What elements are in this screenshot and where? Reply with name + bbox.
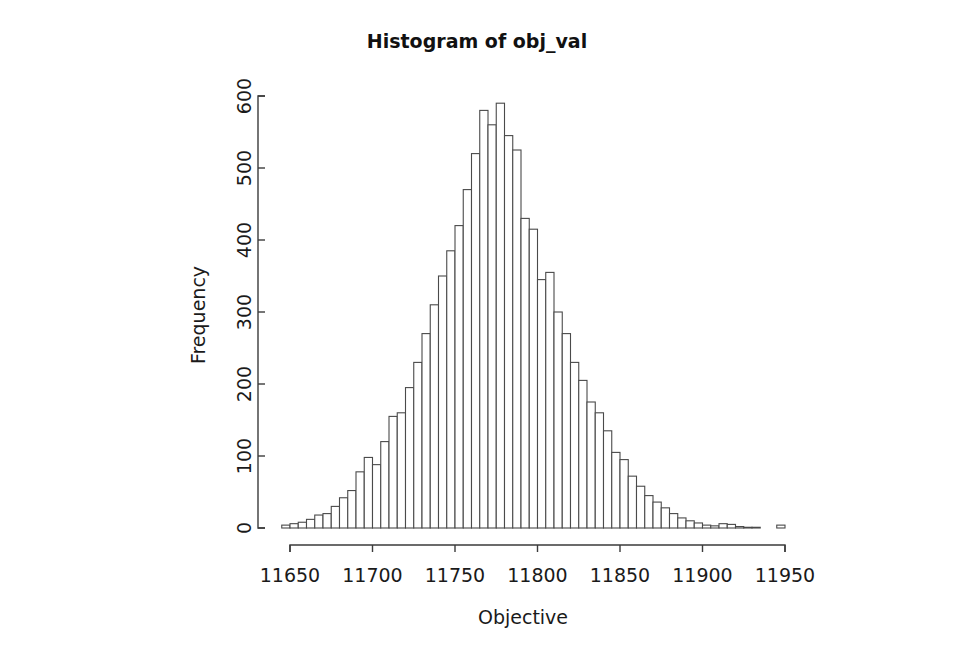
- histogram-bar: [752, 527, 760, 528]
- histogram-bar: [282, 525, 290, 528]
- histogram-bar: [727, 524, 735, 528]
- x-tick-label: 11950: [755, 564, 815, 586]
- x-tick-label: 11900: [672, 564, 732, 586]
- histogram-bar: [472, 154, 480, 528]
- y-tick-label: 500: [233, 150, 255, 186]
- screenshot-page: Histogram of obj_val Frequency Objective…: [0, 0, 965, 668]
- histogram-bar: [348, 491, 356, 528]
- histogram-bar: [323, 514, 331, 528]
- histogram-bar: [579, 380, 587, 528]
- histogram-bar: [595, 413, 603, 528]
- histogram-bar: [604, 431, 612, 528]
- histogram-bar: [406, 388, 414, 528]
- y-tick-label: 600: [233, 78, 255, 114]
- x-axis-label: Objective: [478, 606, 568, 628]
- histogram-bar: [744, 527, 752, 528]
- histogram-bar: [373, 465, 381, 528]
- y-tick-label: 100: [233, 438, 255, 474]
- x-tick-label: 11750: [425, 564, 485, 586]
- histogram-bar: [703, 525, 711, 528]
- histogram-bar: [686, 521, 694, 528]
- histogram-bar: [529, 229, 537, 528]
- histogram-bar: [315, 515, 323, 528]
- histogram-bar: [612, 452, 620, 528]
- y-tick-label: 300: [233, 294, 255, 330]
- histogram-bar: [447, 251, 455, 528]
- histogram-bar: [439, 276, 447, 528]
- histogram-bar: [694, 523, 702, 528]
- histogram-bar: [571, 362, 579, 528]
- histogram-bar: [661, 508, 669, 528]
- histogram-svg: Histogram of obj_val Frequency Objective…: [0, 0, 965, 668]
- histogram-bar: [488, 125, 496, 528]
- histogram-bar: [719, 524, 727, 528]
- histogram-bar: [620, 460, 628, 528]
- histogram-figure: Histogram of obj_val Frequency Objective…: [0, 0, 965, 668]
- histogram-bar: [711, 526, 719, 528]
- histogram-bar: [587, 402, 595, 528]
- histogram-bar: [496, 103, 504, 528]
- histogram-bar: [628, 476, 636, 528]
- histogram-bar: [381, 442, 389, 528]
- histogram-bar: [389, 416, 397, 528]
- histogram-bar: [554, 312, 562, 528]
- x-tick-label: 11850: [590, 564, 650, 586]
- histogram-bar: [521, 218, 529, 528]
- x-tick-label: 11800: [507, 564, 567, 586]
- histogram-bar: [356, 472, 364, 528]
- y-tick-label: 400: [233, 222, 255, 258]
- histogram-bar: [562, 334, 570, 528]
- histogram-bar: [340, 498, 348, 528]
- histogram-bar: [678, 518, 686, 528]
- histogram-bar: [513, 150, 521, 528]
- histogram-bar: [463, 190, 471, 528]
- histogram-bar: [307, 519, 315, 528]
- histogram-bar: [480, 110, 488, 528]
- histogram-bar: [455, 226, 463, 528]
- chart-title: Histogram of obj_val: [367, 30, 587, 53]
- histogram-bar: [331, 506, 339, 528]
- histogram-bar: [414, 362, 422, 528]
- histogram-bar: [546, 272, 554, 528]
- histogram-bar: [538, 280, 546, 528]
- histogram-bar: [670, 514, 678, 528]
- histogram-bar: [777, 525, 785, 528]
- histogram-bar: [505, 136, 513, 528]
- histogram-bar: [290, 524, 298, 528]
- histogram-bar: [653, 502, 661, 528]
- histogram-bar: [637, 486, 645, 528]
- histogram-bar: [422, 334, 430, 528]
- histogram-bar: [645, 496, 653, 528]
- x-tick-label: 11700: [342, 564, 402, 586]
- histogram-bar: [364, 457, 372, 528]
- histogram-bar: [298, 522, 306, 528]
- histogram-bar: [430, 305, 438, 528]
- histogram-bar: [397, 413, 405, 528]
- histogram-bar: [736, 527, 744, 528]
- y-tick-label: 200: [233, 366, 255, 402]
- y-tick-label: 0: [233, 522, 255, 534]
- x-tick-label: 11650: [260, 564, 320, 586]
- y-axis-label: Frequency: [187, 266, 209, 364]
